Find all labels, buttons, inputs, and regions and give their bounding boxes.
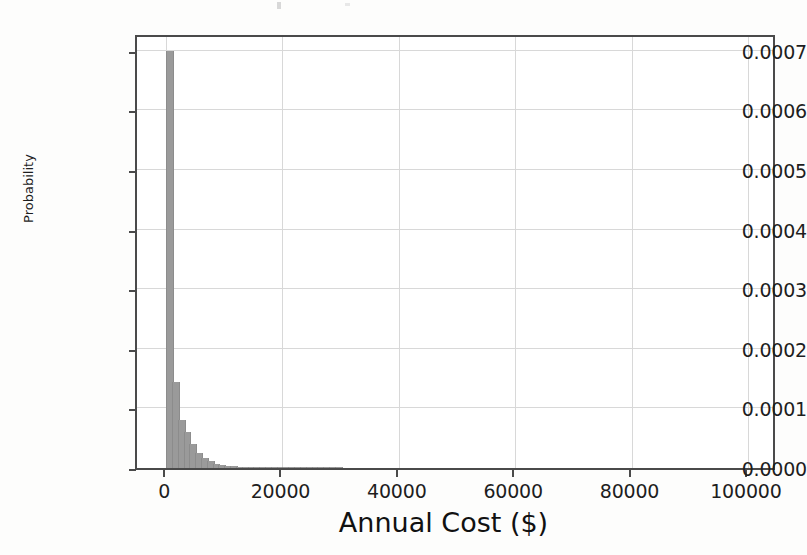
scan-speckle bbox=[277, 2, 281, 9]
x-axis-title: Annual Cost ($) bbox=[0, 508, 807, 538]
x-axis-title-text: Annual Cost ($) bbox=[339, 508, 548, 538]
y-axis-tick-label: 0.0003 bbox=[689, 281, 807, 300]
x-axis-tick-label: 40000 bbox=[367, 480, 426, 502]
gridline-horizontal bbox=[137, 348, 773, 349]
y-axis-tick bbox=[129, 350, 136, 352]
y-axis-tick-label: 0.0006 bbox=[689, 102, 807, 121]
y-axis-tick-label: 0.0004 bbox=[689, 222, 807, 241]
x-axis-tick-label: 20000 bbox=[251, 480, 310, 502]
gridline-vertical bbox=[515, 37, 516, 468]
x-axis-tick-label: 0 bbox=[158, 480, 170, 502]
y-axis-tick bbox=[129, 409, 136, 411]
y-axis-tick bbox=[129, 111, 136, 113]
y-axis-tick bbox=[129, 469, 136, 471]
gridline-vertical bbox=[632, 37, 633, 468]
y-axis-tick-label: 0.0002 bbox=[689, 341, 807, 360]
gridline-vertical bbox=[282, 37, 283, 468]
histogram-figure: 0.00000.00010.00020.00030.00040.00050.00… bbox=[0, 0, 807, 555]
y-axis-tick-label: 0.0001 bbox=[689, 400, 807, 419]
plot-area bbox=[135, 35, 775, 470]
y-axis-tick-label: 0.0007 bbox=[689, 43, 807, 62]
y-axis-tick bbox=[129, 231, 136, 233]
x-axis-tick bbox=[396, 470, 398, 477]
x-axis-tick bbox=[279, 470, 281, 477]
x-axis-tick bbox=[512, 470, 514, 477]
y-axis-tick bbox=[129, 290, 136, 292]
y-axis-tick bbox=[129, 52, 136, 54]
gridline-horizontal bbox=[137, 169, 773, 170]
gridline-horizontal bbox=[137, 50, 773, 51]
gridline-horizontal bbox=[137, 288, 773, 289]
gridline-horizontal bbox=[137, 229, 773, 230]
scan-speckle bbox=[345, 3, 350, 6]
x-axis-tick-label: 80000 bbox=[600, 480, 659, 502]
x-axis-tick-label: 60000 bbox=[483, 480, 542, 502]
y-axis-tick bbox=[129, 171, 136, 173]
x-axis-tick bbox=[629, 470, 631, 477]
gridline-horizontal bbox=[137, 109, 773, 110]
histogram-bar bbox=[335, 467, 343, 468]
y-axis-tick-label: 0.0005 bbox=[689, 162, 807, 181]
x-axis-tick bbox=[163, 470, 165, 477]
gridline-vertical bbox=[399, 37, 400, 468]
gridline-horizontal bbox=[137, 407, 773, 408]
x-axis-tick-label: 100000 bbox=[710, 480, 781, 502]
y-axis-title: Probability bbox=[22, 119, 35, 259]
y-axis-tick-label: 0.0000 bbox=[689, 460, 807, 479]
